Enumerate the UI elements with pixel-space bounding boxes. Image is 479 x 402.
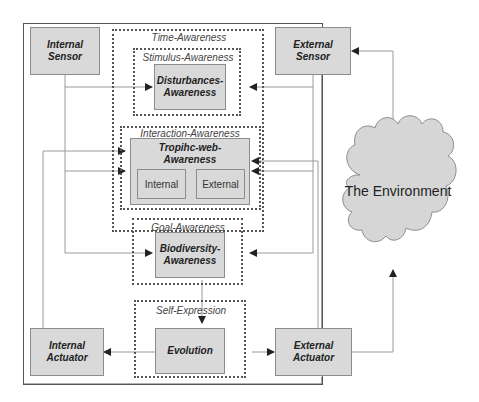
external-sensor-node: External Sensor [275, 27, 351, 75]
internal-sensor-label: Internal Sensor [31, 39, 99, 63]
biodiversity-label-line2: Awareness [164, 255, 217, 267]
external-actuator-label: External Actuator [276, 340, 351, 364]
trophic-internal-node: Internal [137, 169, 186, 199]
stimulus-awareness-label: Stimulus-Awareness [143, 52, 234, 63]
internal-actuator-node: Internal Actuator [30, 328, 104, 376]
external-sensor-label: External Sensor [276, 39, 350, 63]
trophic-external-node: External [196, 169, 245, 199]
self-awareness-architecture-diagram: Time-Awareness Stimulus-Awareness Distur… [0, 0, 479, 402]
external-actuator-node: External Actuator [275, 328, 352, 376]
internal-sensor-node: Internal Sensor [30, 27, 100, 75]
evolution-label: Evolution [167, 345, 213, 357]
biodiversity-awareness-node: Biodiversity- Awareness [155, 232, 225, 278]
disturbances-awareness-node: Disturbances- Awareness [154, 64, 226, 110]
trophic-label-line1: Tropihc-web- [131, 142, 249, 154]
self-expression-label: Self-Expression [156, 305, 226, 316]
evolution-node: Evolution [155, 328, 225, 374]
disturbances-label-line1: Disturbances- [157, 75, 224, 87]
time-awareness-label: Time-Awareness [152, 32, 227, 43]
internal-actuator-label: Internal Actuator [31, 340, 103, 364]
biodiversity-label-line1: Biodiversity- [160, 243, 221, 255]
environment-label: The Environment [345, 183, 452, 199]
trophic-web-awareness-node: Tropihc-web- Awareness Internal External [130, 138, 250, 205]
disturbances-label-line2: Awareness [164, 87, 217, 99]
environment-cloud [343, 116, 456, 242]
trophic-label-line2: Awareness [131, 154, 249, 166]
